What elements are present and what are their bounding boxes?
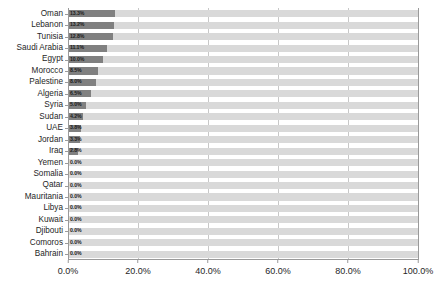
bar-row: 0.0% [68, 216, 418, 223]
x-axis: 0.0%20.0%40.0%60.0%80.0%100.0% [68, 260, 418, 287]
y-axis-label-morocco: Morocco [32, 67, 68, 75]
x-tick-mark [138, 260, 139, 263]
bar-row: 6.5% [68, 90, 418, 97]
bar-rows: 13.3%13.2%12.8%11.1%10.0%8.5%8.0%6.5%5.0… [68, 8, 418, 260]
bar-row: 4.2% [68, 113, 418, 120]
bar-row: 0.0% [68, 193, 418, 200]
bar-row: 8.5% [68, 67, 418, 74]
y-axis-tick: Jordan [0, 134, 68, 145]
bar-track [68, 171, 418, 178]
bar-row: 0.0% [68, 171, 418, 178]
y-axis-label-jordan: Jordan [38, 136, 68, 144]
bar-value-label: 0.0% [70, 240, 81, 245]
y-axis-label-comoros: Comoros [30, 239, 68, 247]
bar-row: 0.0% [68, 251, 418, 258]
bar-value-label: 8.5% [70, 68, 81, 73]
horizontal-bar-chart: OmanLebanonTunisiaSaudi ArabiaEgyptMoroc… [0, 0, 435, 287]
bar-value-label: 0.0% [70, 229, 81, 234]
bar-value-label: 8.0% [70, 80, 81, 85]
bar-row: 2.8% [68, 148, 418, 155]
bar-row: 0.0% [68, 228, 418, 235]
y-axis-label-kuwait: Kuwait [38, 216, 68, 224]
gridline [418, 8, 419, 260]
x-tick-mark [278, 260, 279, 263]
y-axis-label-saudi-arabia: Saudi Arabia [17, 44, 68, 52]
y-axis-tick: Tunisia [0, 31, 68, 42]
bar-value-label: 13.2% [70, 23, 84, 28]
bar-value-label: 12.8% [70, 34, 84, 39]
y-axis-label-mauritania: Mauritania [25, 193, 68, 201]
x-axis-label: 0.0% [58, 267, 79, 276]
x-axis-tick: 0.0% [58, 260, 79, 276]
y-axis-label-palestine: Palestine [29, 78, 68, 86]
x-axis-label: 100.0% [403, 267, 434, 276]
y-axis: OmanLebanonTunisiaSaudi ArabiaEgyptMoroc… [0, 8, 68, 260]
y-axis-label-sudan: Sudan [39, 113, 68, 121]
y-axis-tick: Libya [0, 203, 68, 214]
bar-value-label: 11.1% [70, 45, 84, 50]
y-axis-label-djibouti: Djibouti [36, 227, 68, 235]
bar-row: 0.0% [68, 205, 418, 212]
bar-track [68, 239, 418, 246]
bar-track [68, 90, 418, 97]
plot-area: 13.3%13.2%12.8%11.1%10.0%8.5%8.0%6.5%5.0… [68, 8, 418, 260]
y-axis-tick: Oman [0, 8, 68, 19]
x-axis-tick: 60.0% [265, 260, 291, 276]
y-axis-tick: Djibouti [0, 226, 68, 237]
bar-row: 0.0% [68, 159, 418, 166]
y-axis-label-oman: Oman [41, 10, 68, 18]
bar-value-label: 0.0% [70, 217, 81, 222]
x-axis-label: 40.0% [195, 267, 221, 276]
bar-value-label: 10.0% [70, 57, 84, 62]
bar-row: 3.8% [68, 125, 418, 132]
y-axis-label-bahrain: Bahrain [35, 250, 68, 258]
x-axis-label: 80.0% [335, 267, 361, 276]
bar-track [68, 10, 418, 17]
bar-value-label: 2.8% [70, 149, 81, 154]
bar-track [68, 182, 418, 189]
bar-track [68, 125, 418, 132]
bar-row: 13.3% [68, 10, 418, 17]
bar-track [68, 102, 418, 109]
bar-value-label: 13.3% [70, 11, 84, 16]
bar-value-label: 5.0% [70, 103, 81, 108]
bar-value-label: 0.0% [70, 252, 81, 257]
x-axis-label: 20.0% [125, 267, 151, 276]
bar-row: 10.0% [68, 56, 418, 63]
bar-track [68, 45, 418, 52]
bar-track [68, 67, 418, 74]
x-axis-tick: 80.0% [335, 260, 361, 276]
bar-track [68, 159, 418, 166]
bar-track [68, 205, 418, 212]
bar-track [68, 79, 418, 86]
bar-track [68, 228, 418, 235]
bar-row: 0.0% [68, 182, 418, 189]
y-axis-label-yemen: Yemen [38, 159, 68, 167]
y-axis-tick: Yemen [0, 157, 68, 168]
y-axis-tick: Egypt [0, 54, 68, 65]
bar-row: 12.8% [68, 33, 418, 40]
bar-value-label: 0.0% [70, 171, 81, 176]
y-axis-tick: Mauritania [0, 191, 68, 202]
bar-track [68, 33, 418, 40]
x-axis-tick: 100.0% [403, 260, 434, 276]
x-tick-mark [208, 260, 209, 263]
y-axis-tick: Lebanon [0, 19, 68, 30]
bar-track [68, 251, 418, 258]
bar-value-label: 0.0% [70, 206, 81, 211]
bar-value-label: 6.5% [70, 91, 81, 96]
bar-row: 11.1% [68, 45, 418, 52]
y-axis-label-algeria: Algeria [38, 90, 69, 98]
bar-value-label: 0.0% [70, 160, 81, 165]
x-axis-label: 60.0% [265, 267, 291, 276]
bar-row: 0.0% [68, 239, 418, 246]
bar-value-label: 3.3% [70, 137, 81, 142]
y-axis-tick: Iraq [0, 145, 68, 156]
y-axis-tick: Comoros [0, 237, 68, 248]
bar-value-label: 3.8% [70, 126, 81, 131]
y-axis-tick: Kuwait [0, 214, 68, 225]
x-tick-mark [418, 260, 419, 263]
y-axis-tick: Syria [0, 100, 68, 111]
y-axis-tick: UAE [0, 123, 68, 134]
bar-track [68, 193, 418, 200]
